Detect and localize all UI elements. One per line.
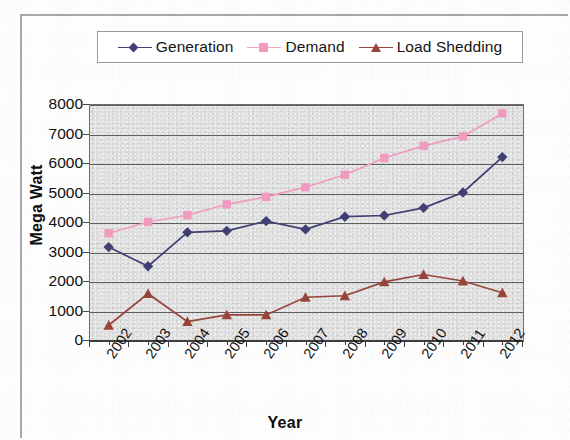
y-tick	[83, 252, 89, 253]
x-tick	[89, 341, 90, 347]
y-tick	[83, 104, 89, 105]
gridline	[90, 135, 523, 136]
y-tick	[83, 311, 89, 312]
plot-area	[89, 104, 524, 342]
x-axis-title: Year	[0, 414, 570, 432]
gridline	[90, 164, 523, 165]
y-tick-label: 1000	[49, 302, 83, 320]
legend-label-demand: Demand	[285, 38, 344, 56]
legend-entry-demand: Demand	[247, 38, 344, 56]
generation-marker-icon	[118, 41, 152, 54]
gridline	[90, 105, 523, 106]
y-tick	[83, 163, 89, 164]
y-tick-label: 6000	[49, 154, 83, 172]
legend-entry-load-shedding: Load Shedding	[359, 38, 503, 56]
y-tick-label: 7000	[49, 125, 83, 143]
gridline	[90, 223, 523, 224]
y-tick	[83, 193, 89, 194]
demand-marker-icon	[247, 41, 281, 54]
legend-entry-generation: Generation	[118, 38, 234, 56]
y-tick-label: 3000	[49, 243, 83, 261]
gridline	[90, 282, 523, 283]
legend-label-load-shedding: Load Shedding	[397, 38, 503, 56]
legend-label-generation: Generation	[156, 38, 234, 56]
chart-legend: Generation Demand Load Shedding	[97, 31, 523, 63]
y-tick-label: 4000	[49, 213, 83, 231]
y-tick-label: 8000	[49, 95, 83, 113]
gridline	[90, 312, 523, 313]
y-tick-label: 0	[74, 331, 83, 349]
load-shedding-marker-icon	[359, 41, 393, 54]
gridline	[90, 194, 523, 195]
y-tick	[83, 222, 89, 223]
y-tick-label: 2000	[49, 272, 83, 290]
y-tick-label: 5000	[49, 184, 83, 202]
y-tick	[83, 134, 89, 135]
gridline	[90, 253, 523, 254]
y-axis-title: Mega Watt	[28, 150, 46, 260]
y-tick	[83, 281, 89, 282]
line-chart: Generation Demand Load Shedding 01000200…	[0, 0, 570, 440]
